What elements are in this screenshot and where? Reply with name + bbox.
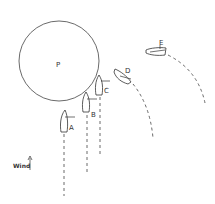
boat-e-label: E xyxy=(159,39,163,47)
boat-b: B xyxy=(82,92,97,175)
boat-a: A xyxy=(60,110,75,196)
boat-e: E xyxy=(146,39,205,103)
wind-label: Wind xyxy=(13,162,30,169)
boat-d: D xyxy=(114,67,153,138)
boat-c-label: C xyxy=(104,87,109,95)
sailing-diagram: P A B C D E Wind xyxy=(0,0,215,204)
mark-label: P xyxy=(56,61,60,69)
boat-a-label: A xyxy=(69,124,74,132)
boat-b-label: B xyxy=(91,111,96,119)
boat-d-label: D xyxy=(125,67,130,75)
boat-d-track xyxy=(133,84,153,138)
wind-indicator: Wind xyxy=(13,156,32,170)
boat-e-track xyxy=(168,55,205,103)
boat-c: C xyxy=(95,75,110,157)
